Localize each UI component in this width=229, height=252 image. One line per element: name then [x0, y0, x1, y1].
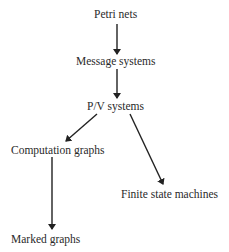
- node-marked-graphs: Marked graphs: [11, 233, 80, 246]
- arrow-pv-to-computation: [66, 114, 97, 141]
- edges-layer: [0, 0, 229, 252]
- node-computation-graphs: Computation graphs: [11, 144, 105, 157]
- node-petri-nets: Petri nets: [94, 8, 137, 21]
- node-message-systems: Message systems: [76, 55, 156, 68]
- node-finite-state-machines: Finite state machines: [121, 188, 218, 201]
- node-pv-systems: P/V systems: [87, 100, 144, 113]
- arrow-pv-to-fsm: [130, 114, 163, 184]
